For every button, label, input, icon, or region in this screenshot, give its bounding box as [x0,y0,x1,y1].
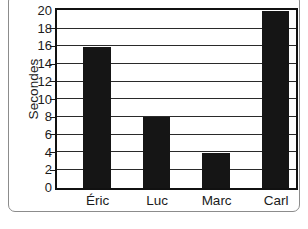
bar [83,47,110,188]
x-axis-tick-label: Carl [246,193,306,209]
x-axis-tick-label: Marc [187,193,247,209]
bar [143,117,170,188]
bars-layer [57,10,296,188]
x-axis-tick-label: Éric [68,193,128,209]
x-axis-tick-labels: ÉricLucMarcCarl [55,193,298,213]
bar [202,153,229,188]
bar [262,11,289,188]
bar-chart-figure: Secondes 02468101214161820 ÉricLucMarcCa… [0,0,308,229]
plot-area [55,8,298,190]
x-axis-tick-label: Luc [127,193,187,209]
